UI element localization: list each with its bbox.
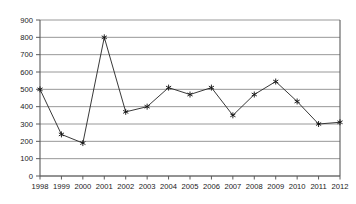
y-axis-tick-label-300: 300 bbox=[20, 120, 33, 129]
data-point-2005 bbox=[187, 92, 192, 98]
data-point-1999 bbox=[59, 131, 64, 137]
y-axis-labels: 0100200300400500600700800900 bbox=[20, 16, 33, 181]
x-axis-tick-label-2012: 2012 bbox=[332, 182, 349, 191]
y-axis-tick-label-700: 700 bbox=[20, 50, 33, 59]
x-axis-tick-label-2008: 2008 bbox=[246, 182, 263, 191]
x-axis-tick-label-2007: 2007 bbox=[224, 182, 241, 191]
y-axis-tick-marks bbox=[36, 20, 40, 176]
x-axis-tick-label-2006: 2006 bbox=[203, 182, 220, 191]
x-axis-labels: 1998199920002001200220032004200520062007… bbox=[32, 182, 349, 191]
axes bbox=[40, 20, 340, 176]
y-axis-tick-label-500: 500 bbox=[20, 85, 33, 94]
gridlines bbox=[40, 20, 340, 176]
y-axis-tick-label-0: 0 bbox=[29, 172, 33, 181]
series-polyline-series-1 bbox=[40, 37, 340, 143]
y-axis-tick-label-800: 800 bbox=[20, 33, 33, 42]
y-axis-tick-label-400: 400 bbox=[20, 102, 33, 111]
y-axis-tick-label-200: 200 bbox=[20, 137, 33, 146]
x-axis-tick-label-2010: 2010 bbox=[289, 182, 306, 191]
x-axis-tick-label-1999: 1999 bbox=[53, 182, 70, 191]
x-axis-tick-label-2000: 2000 bbox=[74, 182, 91, 191]
y-axis-tick-label-900: 900 bbox=[20, 16, 33, 25]
line-chart: 0100200300400500600700800900 19981999200… bbox=[0, 0, 356, 204]
x-axis-tick-label-2004: 2004 bbox=[160, 182, 177, 191]
x-axis-tick-label-2002: 2002 bbox=[117, 182, 134, 191]
x-axis-tick-label-2005: 2005 bbox=[182, 182, 199, 191]
x-axis-tick-label-1998: 1998 bbox=[32, 182, 49, 191]
data-point-markers bbox=[37, 34, 342, 146]
x-axis-tick-label-2009: 2009 bbox=[267, 182, 284, 191]
x-axis-tick-label-2003: 2003 bbox=[139, 182, 156, 191]
y-axis-tick-label-100: 100 bbox=[20, 154, 33, 163]
plot-area-wrapper: 0100200300400500600700800900 19981999200… bbox=[0, 0, 356, 204]
x-axis-tick-label-2011: 2011 bbox=[310, 182, 326, 191]
x-axis-tick-label-2001: 2001 bbox=[96, 182, 113, 191]
chart-canvas: 0100200300400500600700800900 19981999200… bbox=[0, 0, 356, 204]
data-series-line bbox=[40, 37, 340, 143]
y-axis-tick-label-600: 600 bbox=[20, 68, 33, 77]
